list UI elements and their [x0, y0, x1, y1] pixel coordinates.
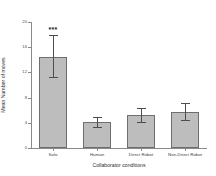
error-bar-line	[53, 35, 54, 77]
error-bar-cap-top	[49, 35, 58, 36]
y-tick-mark	[28, 148, 31, 149]
y-tick-label: 12	[22, 70, 27, 74]
error-bar-line	[185, 103, 186, 120]
y-axis-title: Mean Number of moves	[1, 57, 6, 112]
y-tick-label: 0	[25, 146, 27, 150]
y-tick-mark	[28, 47, 31, 48]
error-bar-cap-bottom	[93, 127, 102, 128]
y-tick-label: 8	[25, 95, 27, 99]
error-bar-cap-bottom	[49, 77, 58, 78]
x-axis-line	[31, 148, 207, 149]
error-bar-cap-bottom	[137, 122, 146, 123]
error-bar-cap-top	[93, 117, 102, 118]
x-tick-label: Non-Direct Robot	[168, 153, 202, 157]
x-tick-label: Solo	[49, 153, 58, 157]
x-tick-label: Human	[90, 153, 104, 157]
y-tick-mark	[28, 98, 31, 99]
x-tick-mark	[141, 148, 142, 151]
y-tick-label: 4	[25, 121, 27, 125]
plot-area: 048121620 SoloHumanDirect RobotNon-Direc…	[31, 22, 207, 148]
y-tick-label: 20	[22, 20, 27, 24]
error-bar-cap-top	[137, 108, 146, 109]
error-bar-line	[97, 117, 98, 128]
y-axis-line	[31, 22, 32, 148]
x-tick-mark	[97, 148, 98, 151]
y-tick-label: 16	[22, 45, 27, 49]
y-tick-mark	[28, 123, 31, 124]
y-tick-mark	[28, 22, 31, 23]
bar-chart-figure: Mean Number of moves 048121620 SoloHuman…	[0, 0, 216, 176]
x-tick-mark	[53, 148, 54, 151]
x-tick-mark	[185, 148, 186, 151]
x-axis-title: Collaborator conditions	[31, 163, 207, 168]
y-tick-mark	[28, 72, 31, 73]
significance-marker: ***	[49, 26, 58, 33]
x-tick-label: Direct Robot	[129, 153, 153, 157]
error-bar-cap-bottom	[181, 120, 190, 121]
error-bar-line	[141, 108, 142, 122]
error-bar-cap-top	[181, 103, 190, 104]
